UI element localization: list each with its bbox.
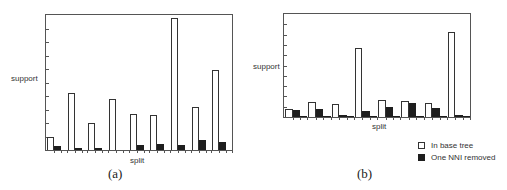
baseline-segment bbox=[463, 116, 470, 118]
x-axis-tick bbox=[116, 150, 117, 153]
chart-b-x-axis-label: split bbox=[372, 122, 386, 131]
bar-one-nni-removed bbox=[54, 146, 61, 150]
x-axis-tick bbox=[300, 117, 301, 120]
legend-label: In base tree bbox=[431, 141, 473, 150]
bar-one-nni-removed bbox=[339, 115, 347, 117]
y-axis-tick bbox=[46, 123, 49, 124]
x-axis-tick bbox=[386, 117, 387, 120]
baseline-segment bbox=[300, 116, 307, 118]
x-axis-tick bbox=[61, 150, 62, 153]
bar-in-base-tree bbox=[150, 115, 157, 150]
x-axis-tick bbox=[339, 117, 340, 120]
bar-in-base-tree bbox=[109, 99, 116, 150]
chart-b-y-axis-label: support bbox=[253, 62, 280, 71]
chart-a-panel-label: (a) bbox=[108, 166, 122, 182]
x-axis-tick bbox=[129, 150, 130, 153]
bar-in-base-tree bbox=[171, 18, 178, 150]
bar-one-nni-removed bbox=[75, 148, 82, 150]
x-axis-tick bbox=[232, 150, 233, 153]
x-axis-tick bbox=[170, 150, 171, 153]
x-axis-tick bbox=[416, 117, 417, 120]
x-axis-tick bbox=[67, 150, 68, 153]
x-axis-tick bbox=[293, 117, 294, 120]
bar-one-nni-removed bbox=[293, 110, 301, 117]
y-axis-tick bbox=[284, 66, 287, 67]
y-axis-tick bbox=[284, 35, 287, 36]
bar-in-base-tree bbox=[448, 32, 456, 117]
x-axis-tick bbox=[185, 150, 186, 153]
bar-one-nni-removed bbox=[316, 109, 324, 117]
x-axis-tick bbox=[347, 117, 348, 120]
bar-in-base-tree bbox=[47, 137, 54, 151]
y-axis-tick bbox=[284, 86, 287, 87]
baseline-segment bbox=[440, 116, 447, 118]
x-axis-tick bbox=[211, 150, 212, 153]
y-axis-tick bbox=[46, 83, 49, 84]
x-axis-tick bbox=[95, 150, 96, 153]
x-axis-tick bbox=[82, 150, 83, 153]
x-axis-tick bbox=[362, 117, 363, 120]
x-axis-tick bbox=[226, 150, 227, 153]
bar-one-nni-removed bbox=[157, 144, 164, 150]
x-axis-tick bbox=[409, 117, 410, 120]
x-axis-tick bbox=[191, 150, 192, 153]
baseline-segment bbox=[393, 116, 400, 118]
bar-in-base-tree bbox=[68, 93, 75, 150]
x-axis-tick bbox=[219, 150, 220, 153]
bar-in-base-tree bbox=[192, 107, 199, 150]
y-axis-tick bbox=[46, 69, 49, 70]
chart-a-plot-area bbox=[45, 14, 233, 151]
y-axis-tick bbox=[46, 110, 49, 111]
y-axis-tick bbox=[284, 107, 287, 108]
y-axis-tick bbox=[284, 76, 287, 77]
y-axis-tick bbox=[284, 24, 287, 25]
x-axis-tick bbox=[178, 150, 179, 153]
y-axis-tick bbox=[46, 42, 49, 43]
x-axis-tick bbox=[370, 117, 371, 120]
chart-b-plot-area bbox=[283, 13, 471, 118]
x-axis-tick bbox=[331, 117, 332, 120]
bar-one-nni-removed bbox=[409, 103, 417, 117]
bar-in-base-tree bbox=[378, 100, 386, 117]
chart-a-y-axis-label: support bbox=[11, 74, 38, 83]
x-axis-tick bbox=[400, 117, 401, 120]
legend-item-nni-removed: One NNI removed bbox=[418, 151, 495, 163]
x-axis-tick bbox=[455, 117, 456, 120]
x-axis-tick bbox=[87, 150, 88, 153]
bar-one-nni-removed bbox=[95, 148, 102, 150]
x-axis-tick bbox=[447, 117, 448, 120]
x-axis-tick bbox=[54, 150, 55, 153]
bar-one-nni-removed bbox=[178, 145, 185, 150]
baseline-segment bbox=[323, 116, 330, 118]
bar-in-base-tree bbox=[212, 70, 219, 150]
legend-label: One NNI removed bbox=[431, 153, 495, 162]
x-axis-tick bbox=[206, 150, 207, 153]
chart-b-panel-label: (b) bbox=[357, 166, 372, 182]
x-axis-tick bbox=[144, 150, 145, 153]
bar-in-base-tree bbox=[88, 123, 95, 150]
x-axis-tick bbox=[463, 117, 464, 120]
x-axis-tick bbox=[157, 150, 158, 153]
y-axis-tick bbox=[284, 96, 287, 97]
x-axis-tick bbox=[307, 117, 308, 120]
bar-one-nni-removed bbox=[386, 107, 394, 117]
y-axis-tick bbox=[284, 45, 287, 46]
y-axis-tick bbox=[46, 96, 49, 97]
x-axis-tick bbox=[470, 117, 471, 120]
x-axis-tick bbox=[354, 117, 355, 120]
x-axis-tick bbox=[432, 117, 433, 120]
x-axis-tick bbox=[164, 150, 165, 153]
bar-in-base-tree bbox=[355, 48, 363, 117]
x-axis-tick bbox=[323, 117, 324, 120]
bar-one-nni-removed bbox=[362, 111, 370, 117]
x-axis-tick bbox=[123, 150, 124, 153]
legend-item-base-tree: In base tree bbox=[418, 139, 495, 151]
y-axis-tick bbox=[284, 55, 287, 56]
x-axis-tick bbox=[377, 117, 378, 120]
baseline-segment bbox=[370, 116, 377, 118]
x-axis-tick bbox=[108, 150, 109, 153]
x-axis-tick bbox=[102, 150, 103, 153]
bar-in-base-tree bbox=[130, 114, 137, 150]
bar-in-base-tree bbox=[425, 103, 433, 117]
bar-in-base-tree bbox=[285, 109, 293, 117]
